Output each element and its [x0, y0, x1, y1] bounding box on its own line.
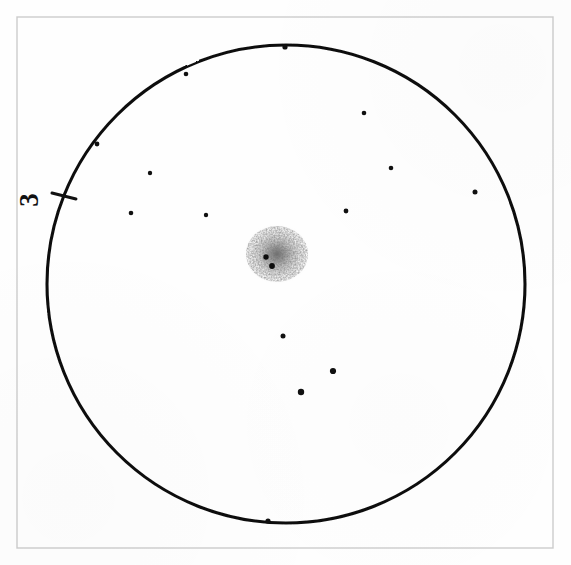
figure-canvas: 3	[0, 0, 571, 565]
central-diffuse-cluster	[243, 223, 311, 285]
scatter-point	[389, 166, 394, 171]
cluster-core-point	[269, 263, 275, 269]
scatter-point	[362, 111, 367, 116]
plate-outline	[47, 45, 525, 523]
plate-outline-group	[47, 45, 525, 523]
plate-number-label: 3	[14, 193, 44, 207]
scatter-point	[265, 518, 270, 523]
scatter-point	[281, 334, 286, 339]
scatter-point	[298, 389, 304, 395]
scatter-point	[344, 209, 349, 214]
scatter-point	[204, 213, 208, 217]
scatter-point	[473, 190, 478, 195]
scatter-point	[129, 211, 134, 216]
scatter-point	[282, 44, 287, 49]
plate-figure-svg: 3	[0, 0, 571, 565]
scatter-point	[330, 368, 336, 374]
scatter-point	[148, 171, 152, 175]
cluster-speckle	[246, 226, 308, 282]
scatter-point	[184, 72, 189, 77]
scatter-point-group	[95, 44, 478, 523]
scatter-point	[95, 142, 100, 147]
cluster-core-point	[263, 254, 268, 259]
